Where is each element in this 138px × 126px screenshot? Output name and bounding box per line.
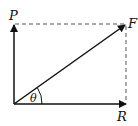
label-p: P [8, 8, 18, 23]
label-theta: θ [30, 92, 37, 105]
label-r: R [116, 109, 127, 124]
label-f: F [127, 16, 138, 31]
theta-arc [38, 88, 43, 104]
vector-diagram: P F R θ [0, 0, 138, 126]
